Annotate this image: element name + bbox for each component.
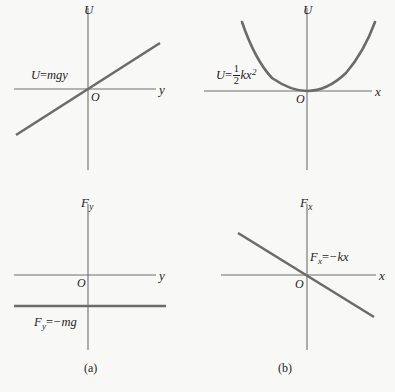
- physics-figure: U y O U=mgy U x O U=12kx2: [0, 0, 395, 392]
- y-axis-label-subscript: y: [89, 202, 93, 212]
- y-axis-label: Fy: [81, 196, 93, 212]
- origin-label: O: [77, 277, 86, 289]
- y-axis-label-base: F: [300, 195, 308, 210]
- y-axis-label: Fx: [300, 196, 312, 212]
- equation-lhs: U: [31, 68, 40, 82]
- panel-caption-a: (a): [84, 361, 97, 376]
- y-axis-label: U: [303, 3, 312, 16]
- panel-a-top: U y O U=mgy: [0, 0, 190, 190]
- equation-label-u-mgy: U=mgy: [31, 69, 68, 82]
- equation-lhs: F: [310, 250, 318, 264]
- equation-label-fx-kx: Fx=−kx: [310, 251, 349, 266]
- panel-b-bottom-plot: [196, 190, 395, 392]
- origin-label: O: [296, 93, 305, 105]
- data-curve-parabola-potential: [242, 22, 375, 91]
- x-axis-label: x: [379, 269, 385, 282]
- fraction-numerator: 1: [233, 64, 240, 75]
- panel-caption-b: (b): [278, 361, 292, 376]
- equation-rhs: −mg: [53, 315, 77, 329]
- panel-b-bottom: Fx x O Fx=−kx (b): [196, 190, 395, 392]
- equation-variable-x: x: [246, 68, 252, 82]
- equation-lhs: F: [34, 315, 42, 329]
- panel-a-bottom: Fy y O Fy=−mg (a): [0, 190, 190, 392]
- fraction-denominator: 2: [233, 75, 240, 87]
- fraction-one-half: 12: [233, 64, 240, 86]
- y-axis-label-subscript: x: [308, 202, 312, 212]
- equation-lhs: U: [216, 68, 225, 82]
- panel-b-top: U x O U=12kx2: [196, 0, 395, 190]
- equation-rhs: mgy: [47, 68, 68, 82]
- x-axis-label: y: [159, 269, 165, 282]
- x-axis-label: x: [375, 85, 381, 98]
- x-axis-label: y: [159, 83, 165, 96]
- equation-label-u-half-kx2: U=12kx2: [216, 64, 257, 86]
- y-axis-label-base: F: [81, 195, 89, 210]
- equation-exponent: 2: [252, 67, 257, 77]
- equation-rhs: −kx: [329, 250, 349, 264]
- equation-operator: =: [46, 315, 53, 329]
- origin-label: O: [295, 278, 304, 290]
- equation-operator: =: [225, 68, 232, 82]
- equation-label-fy-mg: Fy=−mg: [34, 316, 77, 331]
- y-axis-label: U: [84, 3, 93, 16]
- origin-label: O: [91, 91, 100, 103]
- equation-operator: =: [322, 250, 329, 264]
